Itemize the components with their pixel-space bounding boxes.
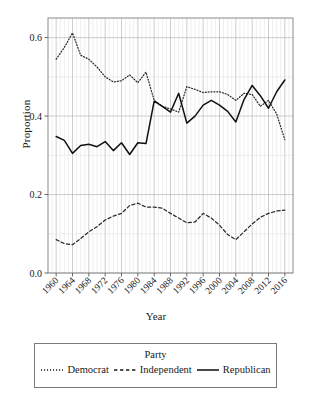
svg-text:2016: 2016 (269, 275, 290, 296)
svg-text:0.0: 0.0 (30, 268, 43, 279)
legend-key-democrat-icon (40, 366, 64, 374)
legend-label: Independent (140, 364, 192, 376)
chart-figure: 0.00.20.40.6 196019641968197219761980198… (0, 0, 312, 404)
x-axis-title: Year (0, 310, 312, 322)
legend: Party DemocratIndependentRepublican (34, 343, 277, 388)
y-axis-ticks: 0.00.20.40.6 (30, 32, 49, 278)
svg-text:1976: 1976 (105, 275, 126, 296)
svg-text:1992: 1992 (171, 275, 192, 296)
legend-item-republican: Republican (196, 364, 271, 376)
svg-text:1984: 1984 (138, 275, 159, 296)
legend-label: Republican (223, 364, 271, 376)
line-chart-canvas: 0.00.20.40.6 196019641968197219761980198… (0, 0, 312, 340)
svg-text:1980: 1980 (122, 275, 143, 296)
legend-items: DemocratIndependentRepublican (35, 364, 276, 376)
svg-text:2000: 2000 (203, 275, 224, 296)
legend-key-independent-icon (113, 366, 137, 374)
legend-item-democrat: Democrat (40, 364, 108, 376)
x-axis-ticks: 1960196419681972197619801984198819921996… (40, 273, 289, 296)
svg-text:1968: 1968 (73, 275, 94, 296)
legend-label: Democrat (67, 364, 108, 376)
legend-title: Party (35, 349, 276, 361)
svg-text:0.6: 0.6 (30, 32, 43, 43)
svg-text:1972: 1972 (89, 275, 110, 296)
svg-text:2008: 2008 (236, 275, 257, 296)
svg-text:1964: 1964 (56, 275, 77, 296)
svg-text:2012: 2012 (252, 275, 273, 296)
svg-text:1996: 1996 (187, 275, 208, 296)
svg-text:2004: 2004 (220, 275, 241, 296)
legend-key-republican-icon (196, 366, 220, 374)
svg-text:1988: 1988 (154, 275, 175, 296)
legend-item-independent: Independent (113, 364, 192, 376)
svg-text:1960: 1960 (40, 275, 61, 296)
plot-region: 0.00.20.40.6 196019641968197219761980198… (0, 0, 312, 404)
y-axis-title: Proportion (20, 54, 32, 194)
